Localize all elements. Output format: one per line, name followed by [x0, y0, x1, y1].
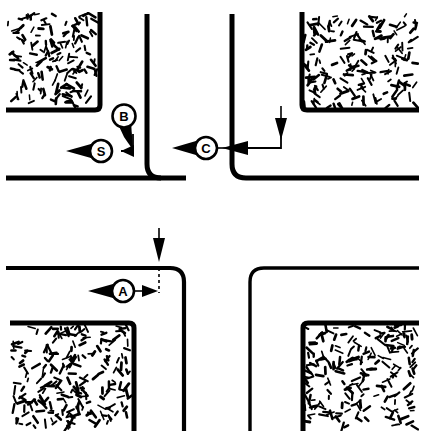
aggregate-speck [124, 407, 127, 411]
aggregate-speck [75, 37, 78, 44]
texture-block-top-left [6, 12, 100, 110]
aggregate-speck [390, 25, 397, 27]
aggregate-speck [70, 358, 73, 360]
aggregate-speck [22, 80, 23, 86]
aggregate-speck [67, 328, 69, 334]
aggregate-speck [85, 90, 88, 96]
callout-c[interactable]: C [172, 137, 217, 159]
aggregate-speck [63, 32, 68, 33]
aggregate-speck [12, 357, 14, 359]
aggregate-speck [42, 370, 43, 377]
aggregate-speck [392, 338, 399, 341]
aggregate-speck [398, 416, 400, 423]
aggregate-speck [22, 356, 25, 357]
aggregate-speck [341, 78, 348, 82]
aggregate-speck [62, 395, 68, 397]
aggregate-speck [348, 19, 350, 24]
aggregate-speck [54, 378, 61, 381]
aggregate-speck [385, 56, 388, 62]
aggregate-speck [381, 407, 384, 409]
aggregate-speck [314, 87, 315, 90]
aggregate-speck [101, 397, 104, 399]
aggregate-speck [392, 90, 397, 97]
aggregate-speck [44, 365, 46, 368]
aggregate-speck [365, 418, 368, 421]
aggregate-speck [70, 361, 74, 367]
aggregate-speck [334, 19, 338, 23]
aggregate-speck [341, 32, 343, 36]
aggregate-speck [334, 79, 336, 83]
aggregate-speck [42, 72, 43, 80]
aggregate-speck [366, 50, 367, 54]
callout-b[interactable]: B [113, 105, 136, 151]
aggregate-speck [309, 82, 316, 83]
aggregate-speck [341, 48, 350, 49]
aggregate-speck [398, 343, 405, 346]
aggregate-speck [27, 378, 28, 381]
aggregate-speck [341, 334, 346, 335]
quadrant-top-left: S B [6, 12, 186, 178]
aggregate-speck [14, 56, 21, 57]
callout-s[interactable]: S [90, 140, 112, 162]
aggregate-speck [83, 355, 86, 358]
aggregate-speck [50, 402, 52, 409]
aggregate-speck [412, 426, 419, 430]
aggregate-speck [73, 341, 75, 347]
aggregate-speck [412, 386, 414, 391]
aggregate-speck [22, 412, 28, 416]
aggregate-speck [48, 67, 52, 69]
callout-a[interactable]: A [112, 280, 134, 302]
aggregate-speck [109, 389, 115, 390]
aggregate-speck [360, 401, 361, 408]
aggregate-speck [122, 402, 123, 406]
aggregate-speckle-fill [8, 13, 99, 108]
aggregate-speck [32, 364, 40, 368]
aggregate-speck [307, 389, 313, 393]
aggregate-speck [363, 389, 368, 390]
aggregate-speck [404, 75, 412, 76]
aggregate-speck [335, 96, 340, 100]
aggregate-speck [126, 412, 127, 417]
aggregate-speck [126, 358, 127, 364]
aggregate-speck [124, 348, 130, 350]
aggregate-speck [25, 351, 27, 353]
aggregate-speck [58, 42, 65, 43]
aggregate-speck [23, 63, 27, 65]
aggregate-speck [23, 35, 26, 40]
aggregate-speck [18, 401, 25, 404]
aggregate-speck [374, 395, 379, 396]
aggregate-speck [365, 333, 370, 336]
aggregate-speck [68, 60, 74, 63]
aggregate-speck [398, 90, 403, 95]
aggregate-speck [74, 364, 81, 366]
aggregate-speck [352, 20, 356, 26]
aggregate-speck [83, 337, 90, 338]
callout-b-label: B [119, 109, 128, 124]
aggregate-speck [107, 421, 108, 424]
aggregate-speck [403, 331, 412, 332]
aggregate-speck [409, 371, 411, 376]
aggregate-speck [50, 58, 53, 59]
aggregate-speck [116, 326, 121, 328]
aggregate-speck [338, 368, 343, 370]
aggregate-speck [316, 375, 323, 376]
aggregate-speckle-fill [303, 322, 418, 431]
aggregate-speck [413, 63, 418, 64]
aggregate-speck [313, 406, 317, 407]
arrowhead-left-c-outer [172, 141, 196, 155]
aggregate-speck [314, 99, 315, 104]
aggregate-speck [45, 358, 48, 361]
aggregate-speck [319, 23, 325, 29]
aggregate-speck [329, 363, 331, 368]
aggregate-speck [376, 361, 379, 364]
aggregate-speck [334, 335, 336, 340]
aggregate-speck [19, 64, 23, 67]
aggregate-speck [95, 420, 99, 426]
aggregate-speck [35, 14, 40, 15]
aggregate-speck [22, 387, 25, 391]
aggregate-speck [409, 407, 414, 408]
aggregate-speck [16, 419, 18, 424]
aggregate-speck [397, 26, 405, 30]
aggregate-speck [80, 343, 86, 346]
aggregate-speck [110, 384, 115, 385]
